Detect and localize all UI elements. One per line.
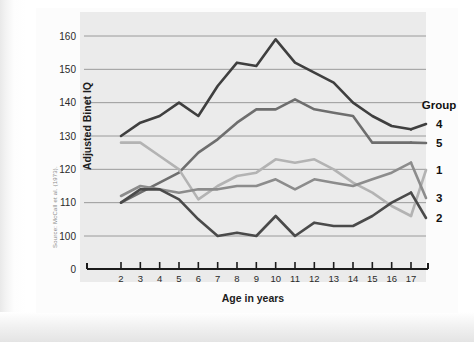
legend-title: Group [422, 99, 457, 111]
series-line-5 [121, 99, 411, 202]
legend-label-3: 3 [436, 192, 442, 204]
x-tick-label: 6 [196, 273, 201, 284]
x-tick-label: 15 [367, 273, 378, 284]
x-tick-label: 4 [157, 273, 162, 284]
y-axis-title: Adjusted Binet IQ [81, 66, 93, 186]
figure-container: 1001101201301401501600234567891011121314… [36, 8, 458, 313]
x-tick-label: 9 [254, 273, 259, 284]
x-tick-label: 10 [270, 273, 281, 284]
x-tick-label: 14 [348, 273, 359, 284]
x-axis-title: Age in years [80, 292, 426, 304]
series-line-2 [121, 189, 411, 236]
page-shadow [0, 312, 474, 342]
x-tick-label: 2 [118, 273, 123, 284]
y-tick-label: 150 [59, 64, 76, 75]
series-line-4 [121, 39, 411, 136]
legend-label-2: 2 [436, 212, 442, 224]
x-tick-label: 7 [215, 273, 220, 284]
y-tick-label: 160 [59, 31, 76, 42]
y-tick-label: 140 [59, 97, 76, 108]
y-tick-label: 120 [59, 164, 76, 175]
line-chart: 1001101201301401501600234567891011121314… [36, 8, 458, 313]
y-tick-label: 100 [59, 231, 76, 242]
x-tick-label: 3 [138, 273, 143, 284]
source-credit: Source: McCall et al. (1973). [52, 152, 58, 262]
x-tick-label: 11 [290, 273, 300, 284]
x-tick-label: 17 [406, 273, 417, 284]
x-tick-label: 8 [234, 273, 239, 284]
x-tick-label: 12 [309, 273, 320, 284]
x-tick-label: 5 [176, 273, 181, 284]
legend-label-5: 5 [436, 137, 443, 149]
legend-leader-4 [411, 124, 426, 129]
x-tick-label: 16 [386, 273, 397, 284]
y-tick-label-zero: 0 [70, 264, 76, 275]
y-tick-label: 110 [60, 197, 76, 208]
legend-label-1: 1 [436, 164, 443, 176]
x-tick-label: 13 [328, 273, 339, 284]
y-tick-label: 130 [59, 131, 76, 142]
legend-label-4: 4 [436, 118, 443, 130]
